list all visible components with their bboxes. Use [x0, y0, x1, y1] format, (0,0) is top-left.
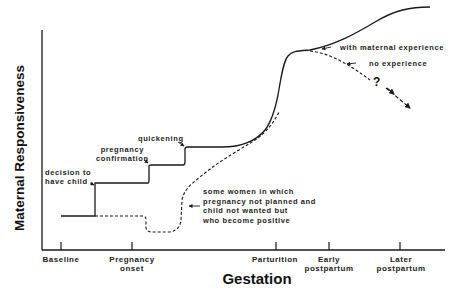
annotation-line: who become positive: [203, 216, 316, 226]
annotation-quickening: quickening: [138, 134, 184, 143]
annotation-line: have child: [45, 177, 91, 186]
tick-label-line: Parturition: [252, 255, 298, 264]
dashed-curve-no-experience: [310, 51, 370, 80]
tick-label-line: postpartum: [377, 264, 426, 273]
annotation-with-maternal-experience: with maternal experience: [340, 43, 444, 52]
annotation-pregnancy-confirmation: pregnancy confirmation: [96, 145, 149, 163]
tick-label-parturition: Parturition: [252, 255, 298, 264]
tick-label-line: onset: [109, 264, 154, 273]
tick-label-pregnancy-onset: Pregnancy onset: [109, 255, 154, 273]
annotation-line: decision to: [45, 168, 91, 177]
tick-label-line: Later: [377, 255, 426, 264]
annotation-line: some women in which: [203, 187, 316, 197]
tick-label-later-postpartum: Later postpartum: [377, 255, 426, 273]
annotation-no-experience: no experience: [369, 59, 427, 68]
tick-label-baseline: Baseline: [43, 255, 80, 264]
annotation-line: pregnancy not planned and: [203, 197, 316, 207]
annotation-decision-to-have-child: decision to have child: [45, 168, 91, 186]
y-axis-title: Maternal Responsiveness: [12, 65, 27, 231]
annotation-line: child not wanted but: [203, 206, 316, 216]
question-mark: ?: [373, 75, 380, 89]
annotation-line: pregnancy: [96, 145, 149, 154]
solid-curve-with-experience: [61, 7, 430, 216]
mid-arrow: [387, 88, 394, 94]
x-axis-ticks: [61, 242, 400, 250]
maternal-responsiveness-figure: Maternal Responsiveness Gestation Baseli…: [0, 0, 454, 302]
tick-label-line: Baseline: [43, 255, 80, 264]
annotation-unplanned-pregnancy: some women in which pregnancy not planne…: [203, 187, 316, 226]
tick-label-early-postpartum: Early postpartum: [305, 255, 354, 273]
tick-label-line: Pregnancy: [109, 255, 154, 264]
pointer-no-experience: [347, 63, 356, 64]
tick-label-line: Early: [305, 255, 354, 264]
annotation-line: confirmation: [96, 154, 149, 163]
tick-label-line: postpartum: [305, 264, 354, 273]
uncertain-decline-arrow: [386, 88, 410, 108]
